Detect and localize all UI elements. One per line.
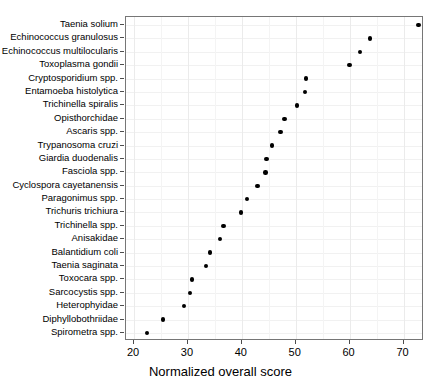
gridline-horizontal [126, 52, 422, 53]
x-axis-tick-label: 30 [181, 346, 193, 359]
data-point[interactable] [347, 63, 351, 67]
gridline-vertical-major [296, 17, 297, 339]
x-axis-tick-label: 60 [343, 346, 355, 359]
data-point[interactable] [188, 291, 192, 295]
gridline-vertical-major [404, 17, 405, 339]
gridline-horizontal [126, 266, 422, 267]
y-axis-label: Taenia solium [60, 19, 118, 29]
gridline-horizontal [126, 172, 422, 173]
y-axis-label: Cryptosporidium spp. [28, 73, 118, 83]
plot-panel [125, 16, 423, 340]
y-axis-label: Toxocara spp. [59, 273, 118, 283]
gridline-horizontal [126, 239, 422, 240]
data-point[interactable] [204, 264, 208, 268]
y-axis-tick [120, 185, 124, 186]
gridline-vertical-major [242, 17, 243, 339]
gridline-horizontal [126, 212, 422, 213]
data-point[interactable] [303, 90, 307, 94]
data-point[interactable] [270, 143, 274, 147]
x-axis-tick-label: 50 [289, 346, 301, 359]
y-axis-tick [120, 131, 124, 132]
gridline-vertical-minor [161, 17, 162, 339]
data-point[interactable] [245, 197, 249, 201]
gridline-horizontal [126, 306, 422, 307]
y-axis-label: Cyclospora cayetanensis [12, 180, 118, 190]
gridline-vertical-minor [215, 17, 216, 339]
data-point[interactable] [304, 76, 308, 80]
y-axis-tick [120, 24, 124, 25]
y-axis-tick [120, 225, 124, 226]
y-axis-label: Toxoplasma gondii [39, 59, 118, 69]
y-axis-label: Trichuris trichiura [46, 206, 119, 216]
x-axis-tick [241, 340, 242, 344]
gridline-horizontal [126, 253, 422, 254]
gridline-horizontal [126, 320, 422, 321]
x-axis-title: Normalized overall score [0, 364, 441, 379]
y-axis-tick [120, 305, 124, 306]
data-point[interactable] [218, 237, 222, 241]
y-axis-tick [120, 278, 124, 279]
gridline-horizontal [126, 25, 422, 26]
y-axis-tick [120, 145, 124, 146]
data-point[interactable] [190, 277, 194, 281]
data-point[interactable] [264, 157, 268, 161]
data-point[interactable] [208, 250, 212, 254]
y-axis-label: Trypanosoma cruzi [38, 140, 118, 150]
y-axis-label: Entamoeba histolytica [25, 86, 118, 96]
y-axis-tick [120, 64, 124, 65]
gridline-horizontal [126, 132, 422, 133]
gridline-vertical-minor [377, 17, 378, 339]
y-axis-label: Sarcocystis spp. [49, 287, 118, 297]
data-point[interactable] [161, 317, 165, 321]
data-point[interactable] [368, 36, 372, 40]
data-point[interactable] [255, 184, 259, 188]
y-axis-label: Opisthorchidae [54, 113, 118, 123]
data-point[interactable] [182, 304, 186, 308]
y-axis-label: Giardia duodenalis [39, 153, 118, 163]
y-axis-tick [120, 118, 124, 119]
data-point[interactable] [358, 50, 362, 54]
data-point[interactable] [263, 170, 267, 174]
data-point[interactable] [278, 130, 282, 134]
y-axis-label: Heterophyidae [56, 300, 118, 310]
y-axis-label: Anisakidae [72, 233, 118, 243]
x-axis-tick [187, 340, 188, 344]
gridline-horizontal [126, 226, 422, 227]
data-point[interactable] [416, 23, 420, 27]
y-axis-tick [120, 78, 124, 79]
gridline-horizontal [126, 92, 422, 93]
y-axis-label: Spirometra spp. [51, 327, 118, 337]
y-axis-label: Taenia saginata [51, 260, 118, 270]
y-axis-label: Echinococcus multilocularis [2, 46, 118, 56]
gridline-vertical-major [134, 17, 135, 339]
data-point[interactable] [239, 210, 243, 214]
y-axis-label: Balantidium coli [51, 247, 118, 257]
gridline-horizontal [126, 333, 422, 334]
x-axis-tick-label: 40 [235, 346, 247, 359]
y-axis-label: Echinococcus granulosus [10, 32, 118, 42]
y-axis-label: Diphyllobothriidae [42, 314, 118, 324]
gridline-vertical-minor [323, 17, 324, 339]
gridline-horizontal [126, 159, 422, 160]
x-axis-tick-label: 70 [396, 346, 408, 359]
gridline-horizontal [126, 199, 422, 200]
y-axis-tick [120, 158, 124, 159]
y-axis-tick [120, 332, 124, 333]
x-axis-tick [403, 340, 404, 344]
data-point[interactable] [145, 331, 149, 335]
data-point[interactable] [221, 224, 225, 228]
x-axis-tick [133, 340, 134, 344]
gridline-vertical-minor [269, 17, 270, 339]
data-point[interactable] [295, 103, 299, 107]
y-axis-tick [120, 171, 124, 172]
y-axis-tick [120, 37, 124, 38]
gridline-horizontal [126, 279, 422, 280]
y-axis-tick [120, 265, 124, 266]
x-axis-tick [295, 340, 296, 344]
y-axis-category-labels: Taenia soliumEchinococcus granulosusEchi… [0, 16, 118, 340]
y-axis-label: Trichinella spp. [54, 220, 118, 230]
y-axis-label: Ascaris spp. [66, 126, 118, 136]
x-axis-tick [349, 340, 350, 344]
gridline-horizontal [126, 119, 422, 120]
data-point[interactable] [282, 117, 286, 121]
